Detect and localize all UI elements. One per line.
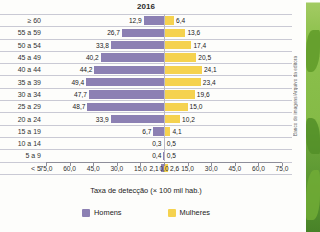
x-axis-tick-label: 30,0 [205,165,218,172]
women-value-label: 17,4 [193,42,206,49]
x-axis-tick-label: 15,0 [134,165,147,172]
chart-figure: Banco de imagens/Arquivo da editora 2016… [0,0,320,232]
bar-row: 5 a 90,40,5 [0,150,292,162]
leaf-shape-icon [306,170,320,220]
x-axis-tick-label: 75,0 [276,165,289,172]
women-bar [164,29,185,37]
bar-row: ≥ 6012,96,4 [0,14,292,27]
men-value-label: 48,7 [73,103,86,110]
women-bar [164,127,170,135]
women-value-label: 10,2 [182,116,195,123]
men-bar [87,103,164,111]
men-value-label: 6,7 [142,128,151,135]
bar-lanes: 48,715,0 [46,101,292,112]
x-axis-tick-label: 75,0 [40,165,53,172]
men-value-label: 49,4 [71,79,84,86]
bar-lanes: 12,96,4 [46,15,292,26]
bar-lanes: 6,74,1 [46,126,292,137]
women-lane: 17,4 [164,40,282,51]
bar-lanes: 47,719,6 [46,89,292,100]
women-lane: 24,1 [164,64,282,75]
men-lane: 0,3 [46,138,164,149]
bar-row: 55 a 5926,713,6 [0,27,292,39]
legend-item: Homens [82,208,122,217]
men-value-label: 40,2 [86,54,99,61]
bar-lanes: 44,224,1 [46,64,292,75]
bar-row: 30 a 3447,719,6 [0,89,292,101]
leaf-shape-icon [306,30,320,72]
bar-lanes: 33,910,2 [46,113,292,124]
leaf-shape-icon [306,118,320,154]
women-value-label: 13,6 [187,29,200,36]
women-value-label: 23,4 [203,79,216,86]
x-axis-tick-labels: 75,060,045,030,015,00,015,030,045,060,07… [46,165,282,175]
category-label: 45 a 49 [0,54,46,61]
women-lane: 23,4 [164,76,282,87]
women-lane: 0,5 [164,150,282,161]
bar-lanes: 40,220,5 [46,52,292,63]
women-bar [164,115,180,123]
men-bar [89,90,164,98]
women-bar [164,41,191,49]
bar-lanes: 26,713,6 [46,27,292,38]
men-lane: 40,2 [46,52,164,63]
legend-color-swatch [82,209,90,217]
women-bar [164,66,202,74]
category-label: 5 a 9 [0,152,46,159]
men-bar [86,78,164,86]
women-lane: 15,0 [164,101,282,112]
women-bar [164,16,174,24]
men-bar [111,41,164,49]
x-axis-tick-label: 30,0 [110,165,123,172]
image-credit: Banco de imagens/Arquivo da editora [291,4,301,136]
women-lane: 13,6 [164,27,282,38]
category-label: 50 a 54 [0,42,46,49]
women-value-label: 20,5 [198,54,211,61]
men-bar [101,53,164,61]
bar-row: 10 a 140,30,5 [0,138,292,150]
men-value-label: 47,7 [74,91,87,98]
men-lane: 33,8 [46,40,164,51]
legend-item: Mulheres [168,208,210,217]
men-lane: 12,9 [46,15,164,26]
women-bar [164,90,195,98]
men-value-label: 0,3 [152,140,161,147]
category-label: 35 a 39 [0,79,46,86]
bar-lanes: 49,423,4 [46,76,292,87]
chart-title: 2016 [0,2,292,11]
x-axis-tick-label: 60,0 [63,165,76,172]
women-lane: 20,5 [164,52,282,63]
bar-row: 25 a 2948,715,0 [0,101,292,113]
bar-row: 15 a 196,74,1 [0,126,292,138]
women-lane: 6,4 [164,15,282,26]
bar-row: 40 a 4444,224,1 [0,64,292,76]
women-value-label: 19,6 [197,91,210,98]
category-label: 55 a 59 [0,29,46,36]
men-bar [153,127,164,135]
women-lane: 10,2 [164,113,282,124]
men-value-label: 12,9 [129,17,142,24]
x-axis-tick-label: 15,0 [181,165,194,172]
center-axis-line [164,14,165,161]
chart-legend: HomensMulheres [0,208,292,217]
women-bar [164,103,188,111]
women-value-label: 0,5 [167,140,176,147]
category-label: ≥ 60 [0,17,46,24]
women-value-label: 24,1 [204,66,217,73]
men-lane: 49,4 [46,76,164,87]
women-lane: 19,6 [164,89,282,100]
category-label: 15 a 19 [0,128,46,135]
x-axis-tick-label: 45,0 [228,165,241,172]
men-bar [122,29,164,37]
men-bar [94,66,164,74]
bar-row: 45 a 4940,220,5 [0,52,292,64]
women-lane: 4,1 [164,126,282,137]
men-value-label: 44,2 [80,66,93,73]
women-value-label: 0,5 [167,152,176,159]
women-bar [164,53,196,61]
women-value-label: 15,0 [190,103,203,110]
bar-lanes: 0,40,5 [46,150,292,161]
men-lane: 33,9 [46,113,164,124]
legend-label: Homens [94,208,122,217]
category-label: 30 a 34 [0,91,46,98]
